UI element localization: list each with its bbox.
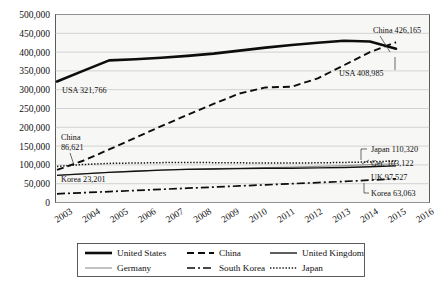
legend-label-united-states: United States: [117, 248, 167, 258]
x-tick-label: 2005: [108, 206, 130, 225]
legend-label-united-kingdom: United Kingdom: [302, 248, 364, 258]
annotation-korea-end: Korea 63,063: [371, 189, 416, 198]
y-tick-label: 400,000: [19, 48, 50, 58]
annotation-usa-start: USA 321,766: [62, 86, 107, 95]
annotation-china-end: China 426,165: [373, 26, 421, 35]
y-tick-label: 250,000: [19, 104, 50, 114]
annotation-uk-end: UK 97,527: [371, 173, 407, 182]
x-tick-label: 2008: [192, 206, 214, 225]
legend-label-germany: Germany: [117, 263, 152, 273]
annotation-korea-start: Korea 23,201: [61, 175, 106, 184]
x-tick-label: 2012: [303, 206, 325, 225]
x-tick-label: 2013: [331, 206, 353, 225]
x-tick-label: 2006: [136, 206, 158, 225]
annotation-china-start-line2: 86,621: [61, 143, 84, 152]
y-tick-label: 350,000: [19, 66, 50, 76]
y-tick-label: 500,000: [19, 10, 50, 20]
legend-label-japan: Japan: [302, 263, 323, 273]
x-tick-label: 2010: [247, 206, 269, 225]
x-tick-label: 2011: [275, 206, 296, 224]
x-tick-label: 2003: [53, 206, 75, 225]
legend: United States China United Kingdom Germa…: [78, 244, 365, 277]
y-tick-label: 200,000: [19, 123, 50, 133]
legend-label-china: China: [219, 248, 241, 258]
annotation-china-start-line1: China: [61, 133, 81, 142]
x-tick-label: 2016: [414, 206, 436, 225]
y-tick-label: 300,000: [19, 85, 50, 95]
annotation-usa-end: USA 408,985: [339, 69, 384, 78]
y-tick-label: 450,000: [19, 29, 50, 39]
chart-container: 500,000 450,000 400,000 350,000 300,000 …: [0, 0, 440, 288]
y-tick-label: 0: [45, 198, 50, 208]
annotation-germany-end: Ger. 103,122: [371, 159, 414, 168]
x-axis-ticks: 2003 2004 2005 2006 2007 2008 2009 2010 …: [53, 206, 436, 225]
x-tick-label: 2004: [81, 206, 103, 225]
legend-label-south-korea: South Korea: [219, 263, 265, 273]
y-tick-label: 50,000: [24, 179, 50, 189]
y-tick-label: 150,000: [19, 142, 50, 152]
x-tick-label: 2015: [386, 206, 408, 225]
x-tick-label: 2009: [220, 206, 242, 225]
x-tick-label: 2014: [359, 206, 381, 225]
line-chart: 500,000 450,000 400,000 350,000 300,000 …: [0, 0, 440, 288]
annotation-japan-end: Japan 110,320: [371, 145, 418, 154]
y-tick-label: 100,000: [19, 160, 50, 170]
x-tick-label: 2007: [164, 206, 186, 225]
y-axis-ticks: 500,000 450,000 400,000 350,000 300,000 …: [19, 10, 50, 208]
